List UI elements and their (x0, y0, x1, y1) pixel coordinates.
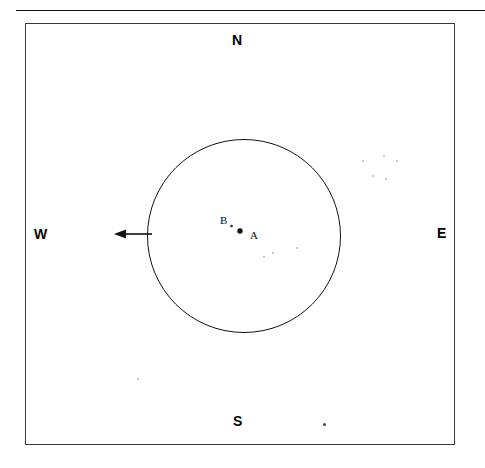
scan-speck (383, 155, 385, 157)
scan-speck (362, 160, 364, 162)
point-label-b: B (220, 215, 227, 226)
range-circle (147, 139, 341, 333)
scan-speck (385, 178, 387, 180)
scan-speck (296, 247, 298, 249)
compass-label-south: S (233, 414, 243, 428)
compass-label-west: W (34, 227, 47, 241)
compass-label-north: N (232, 33, 242, 47)
compass-label-east: E (437, 226, 447, 240)
scan-speck (137, 378, 139, 380)
scan-speck (263, 256, 265, 258)
scan-speck (372, 175, 374, 177)
point-label-a: A (250, 230, 258, 241)
scan-speck (272, 252, 274, 254)
top-horizontal-rule (16, 10, 485, 11)
scan-speck (396, 160, 398, 162)
scan-speck (323, 423, 326, 426)
